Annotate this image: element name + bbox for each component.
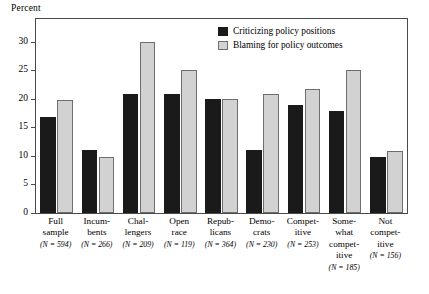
y-axis-tick-label: 25 [19,66,29,76]
category-label-line: bents [73,227,120,238]
bar [329,111,345,213]
legend-label: Blaming for policy outcomes [233,39,343,53]
category-label-line: compet- [321,239,368,250]
y-axis-tick [31,213,36,214]
category-label-line: itive [321,250,368,261]
category-sample-size: (N = 119) [156,239,203,250]
category-sample-size: (N = 253) [279,239,326,250]
category-label-line: Full [32,216,79,227]
y-axis-tick-label: 5 [23,180,28,190]
bar [82,150,98,213]
category-label-line: sample [32,227,79,238]
bar-chart: Percent 051015202530 Criticizing policy … [0,0,429,294]
y-axis-tick [31,99,36,100]
y-axis-tick [31,156,36,157]
category-label-line: Repub- [197,216,244,227]
bar [387,151,403,213]
legend-swatch-icon [218,41,228,50]
category-sample-size: (N = 156) [362,250,409,261]
bar [288,105,304,213]
category-label-line: race [156,227,203,238]
bar [305,89,321,213]
category-label-line: Compet- [279,216,326,227]
category-sample-size: (N = 185) [321,262,368,273]
bar [57,100,73,213]
bar [99,157,115,213]
legend-item: Blaming for policy outcomes [218,39,343,53]
y-axis-tick [31,127,36,128]
x-axis-category-label: Some-whatcompet-itive(N = 185) [321,216,368,273]
category-label-line: Open [156,216,203,227]
x-axis-category-label: Repub-licans(N = 364) [197,216,244,250]
category-label-line: itive [362,239,409,250]
legend-swatch-icon [218,27,228,36]
y-axis-tick-label: 0 [23,208,28,218]
bar [181,70,197,213]
legend-item: Criticizing policy positions [218,25,343,39]
category-label-line: Not [362,216,409,227]
bar [246,150,262,213]
category-label-line: lengers [114,227,161,238]
bar [263,94,279,213]
category-label-line: Demo- [238,216,285,227]
y-axis-tick [31,42,36,43]
category-sample-size: (N = 230) [238,239,285,250]
category-label-line: Some- [321,216,368,227]
bar [164,94,180,213]
bar [205,99,221,213]
category-label-line: Incum- [73,216,120,227]
y-axis-tick-label: 30 [19,37,29,47]
category-label-line: compet- [362,227,409,238]
y-axis-title: Percent [11,3,41,13]
bar [346,70,362,213]
y-axis-tick-label: 20 [19,94,29,104]
category-label-line: Chal- [114,216,161,227]
legend: Criticizing policy positionsBlaming for … [218,25,343,52]
y-axis-tick-label: 15 [19,123,29,133]
x-axis-category-label: Fullsample(N = 594) [32,216,79,250]
category-sample-size: (N = 209) [114,239,161,250]
bar [140,42,156,213]
category-sample-size: (N = 594) [32,239,79,250]
x-axis-category-label: Notcompet-itive(N = 156) [362,216,409,262]
x-axis-category-label: Chal-lengers(N = 209) [114,216,161,250]
category-label-line: itive [279,227,326,238]
x-axis-category-label: Incum-bents(N = 266) [73,216,120,250]
x-axis-category-label: Openrace(N = 119) [156,216,203,250]
x-axis-category-label: Demo-crats(N = 230) [238,216,285,250]
bar [123,94,139,213]
x-axis-category-label: Compet-itive(N = 253) [279,216,326,250]
bar [222,99,238,213]
bar [40,117,56,213]
category-sample-size: (N = 266) [73,239,120,250]
y-axis-tick-label: 10 [19,151,29,161]
category-label-line: what [321,227,368,238]
x-axis-category-labels: Fullsample(N = 594)Incum-bents(N = 266)C… [35,216,408,294]
y-axis-tick [31,184,36,185]
bar [370,157,386,213]
legend-label: Criticizing policy positions [233,25,335,39]
category-label-line: crats [238,227,285,238]
y-axis-tick [31,70,36,71]
category-label-line: licans [197,227,244,238]
category-sample-size: (N = 364) [197,239,244,250]
